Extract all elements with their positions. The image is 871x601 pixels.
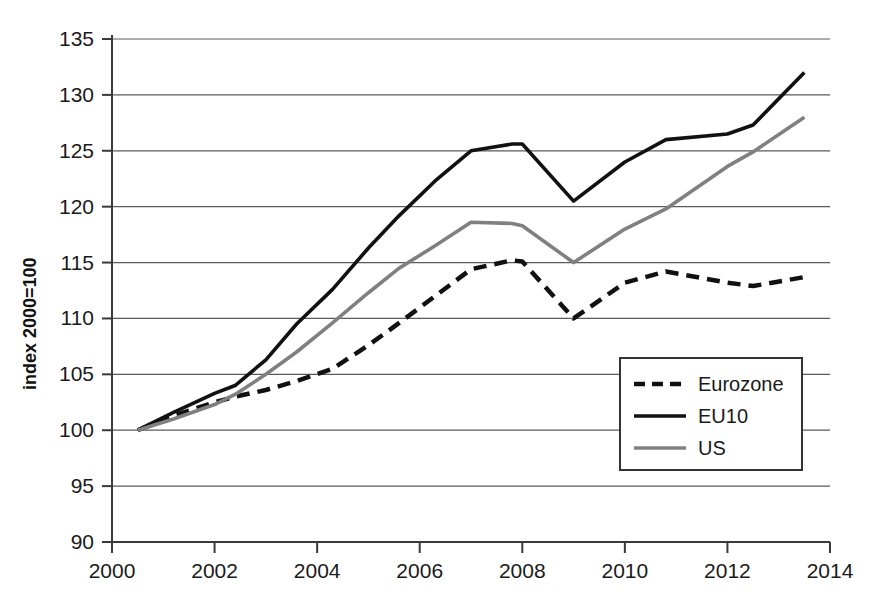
y-axis-title: index 2000=100 — [20, 257, 40, 390]
x-tick-label-2000: 2000 — [89, 559, 136, 582]
y-tick-label-95: 95 — [71, 474, 94, 497]
x-tick-label-2006: 2006 — [396, 559, 443, 582]
x-tick-label-2008: 2008 — [499, 559, 546, 582]
x-tick-label-2010: 2010 — [601, 559, 648, 582]
x-axis-tick-marks — [112, 542, 830, 553]
chart-canvas: 9095100105110115120125130135 20002002200… — [0, 0, 871, 601]
y-tick-label-110: 110 — [61, 306, 94, 329]
y-tick-label-130: 130 — [59, 83, 94, 106]
legend-label-eurozone: Eurozone — [698, 373, 784, 395]
x-tick-label-2002: 2002 — [191, 559, 238, 582]
y-axis-tick-labels: 9095100105110115120125130135 — [59, 27, 94, 553]
x-tick-label-2004: 2004 — [294, 559, 341, 582]
x-axis-tick-labels: 20002002200420062008201020122014 — [89, 559, 854, 582]
legend-label-us: US — [698, 437, 726, 459]
y-tick-label-115: 115 — [61, 251, 94, 274]
y-tick-label-100: 100 — [59, 418, 94, 441]
y-axis-tick-marks — [102, 39, 112, 542]
y-tick-label-90: 90 — [71, 530, 94, 553]
line-chart: 9095100105110115120125130135 20002002200… — [0, 0, 871, 601]
x-tick-label-2014: 2014 — [807, 559, 854, 582]
x-tick-label-2012: 2012 — [704, 559, 751, 582]
y-tick-label-120: 120 — [59, 195, 94, 218]
y-tick-label-125: 125 — [59, 139, 94, 162]
y-tick-label-135: 135 — [59, 27, 94, 50]
y-tick-label-105: 105 — [59, 362, 94, 385]
chart-legend: EurozoneEU10US — [620, 358, 802, 470]
legend-label-eu10: EU10 — [698, 405, 748, 427]
